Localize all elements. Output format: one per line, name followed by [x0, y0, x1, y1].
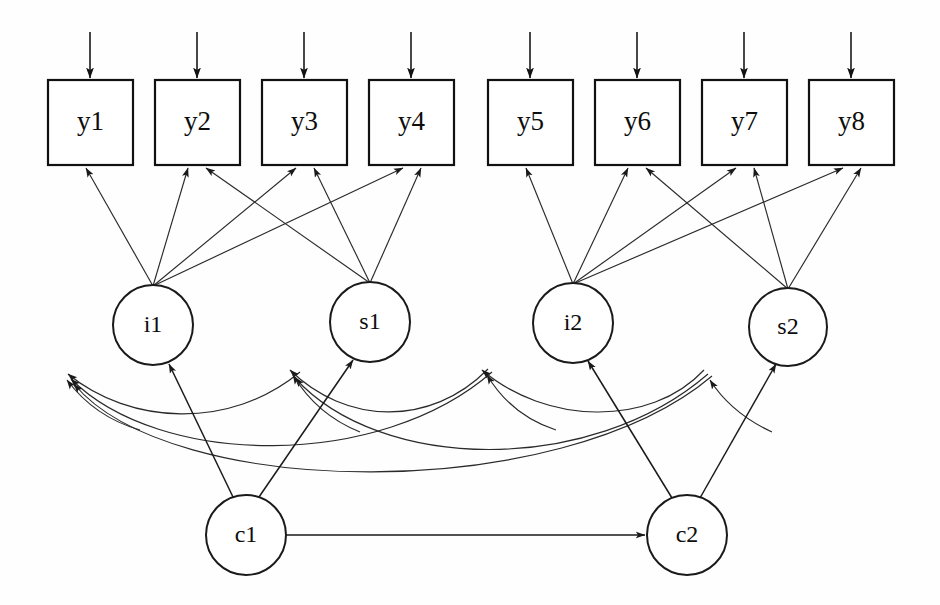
observed-box-y8[interactable] — [809, 80, 894, 165]
observed-box-y5[interactable] — [488, 80, 573, 165]
observed-variable-y5[interactable]: y5 — [488, 80, 573, 165]
structural-edge-c2-i2 — [588, 361, 672, 498]
structural-edge-c2-s2 — [700, 364, 776, 498]
latent-variable-c1[interactable]: c1 — [206, 495, 286, 575]
observed-variable-y6[interactable]: y6 — [595, 80, 680, 165]
observed-variable-y2[interactable]: y2 — [155, 80, 240, 165]
loading-edge-i2-y7 — [573, 168, 736, 284]
latent-circle-s2[interactable] — [749, 288, 827, 366]
observed-box-y6[interactable] — [595, 80, 680, 165]
structural-edge-c1-s1 — [259, 360, 353, 497]
covariance-curve-i1-i2 — [71, 372, 492, 446]
latent-circle-s1[interactable] — [330, 282, 410, 362]
observed-variable-y4[interactable]: y4 — [369, 80, 454, 165]
latent-variable-i1[interactable]: i1 — [113, 285, 193, 365]
covariance-curve-s1-i2 — [290, 369, 488, 412]
loading-edge-i2-y6 — [573, 168, 628, 284]
covariance-head-i2-b — [487, 375, 556, 430]
latent-variable-c2[interactable]: c2 — [647, 495, 727, 575]
loading-edge-i1-y3 — [153, 168, 296, 286]
loading-edge-s2-y8 — [788, 168, 861, 289]
diagram-canvas: y1 y2 y3 y4 y5 y6 — [0, 0, 940, 605]
loading-edge-s1-y4 — [370, 168, 421, 283]
latent-circle-i2[interactable] — [533, 283, 613, 363]
observed-variable-y3[interactable]: y3 — [262, 80, 347, 165]
covariance-curve-i1-s2 — [74, 376, 712, 472]
latent-circle-c1[interactable] — [206, 495, 286, 575]
loading-edge-s1-y2 — [206, 168, 370, 283]
observed-variable-y8[interactable]: y8 — [809, 80, 894, 165]
observed-box-y3[interactable] — [262, 80, 347, 165]
loading-edge-i1-y2 — [153, 168, 188, 286]
observed-box-y2[interactable] — [155, 80, 240, 165]
covariance-curve-i2-s2 — [482, 370, 704, 412]
latent-variable-s1[interactable]: s1 — [330, 282, 410, 362]
structural-edge-c1-i1 — [169, 364, 233, 497]
latent-circle-c2[interactable] — [647, 495, 727, 575]
observed-box-y4[interactable] — [369, 80, 454, 165]
latent-variable-group: i1 s1 i2 s2 c1 c2 — [113, 282, 827, 575]
covariance-curve-i1-s1 — [68, 372, 300, 414]
covariance-curve-s1-s2 — [295, 374, 708, 450]
loading-edge-i2-y5 — [526, 168, 573, 284]
loading-edge-s2-y6 — [646, 168, 788, 289]
observed-box-y7[interactable] — [702, 80, 787, 165]
loading-edge-i2-y8 — [573, 168, 843, 284]
covariance-curve-group — [67, 369, 772, 472]
sem-path-diagram: y1 y2 y3 y4 y5 y6 — [0, 0, 940, 605]
loading-edge-s2-y7 — [754, 168, 788, 289]
loading-edge-s1-y3 — [314, 168, 370, 283]
observed-variable-y1[interactable]: y1 — [48, 80, 133, 165]
observed-variable-group: y1 y2 y3 y4 y5 y6 — [48, 80, 894, 165]
residual-arrow-group — [90, 32, 851, 78]
loading-edge-i1-y4 — [153, 168, 403, 286]
loading-edge-group — [86, 168, 861, 289]
loading-edge-i1-y1 — [86, 168, 153, 286]
latent-variable-s2[interactable]: s2 — [749, 288, 827, 366]
latent-variable-i2[interactable]: i2 — [533, 283, 613, 363]
observed-variable-y7[interactable]: y7 — [702, 80, 787, 165]
covariance-head-s1-b — [293, 375, 360, 432]
observed-box-y1[interactable] — [48, 80, 133, 165]
latent-circle-i1[interactable] — [113, 285, 193, 365]
